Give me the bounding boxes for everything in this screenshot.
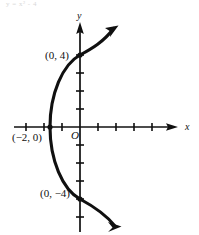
annotation-x-intercept-vertex: (−2, 0) [12,132,42,143]
coordinate-plane-svg [0,0,199,235]
y-axis-label: y [77,11,81,21]
x-axis-label: x [185,122,189,132]
axes-group [14,22,178,232]
point-0-4 [77,52,82,57]
graph-figure: y = x² - 4 [0,0,199,235]
annotation-y-intercept-positive: (0, 4) [45,50,69,61]
origin-label: O [71,130,79,141]
point-0--4 [77,196,82,201]
point--2-0 [47,124,52,129]
annotation-y-intercept-negative: (0, −4) [40,188,70,199]
